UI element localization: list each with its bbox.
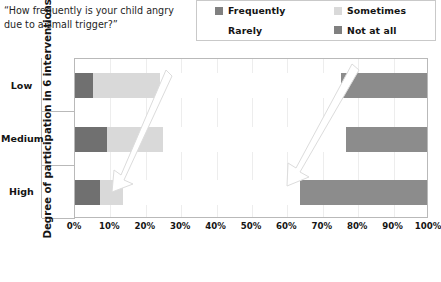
legend-item-frequently: Frequently	[197, 5, 316, 16]
legend-item-rarely: Rarely	[197, 25, 316, 36]
bar-row-low	[75, 73, 428, 98]
bar-segment-medium-not-at-all	[346, 127, 428, 152]
chart-legend: Frequently Sometimes Rarely Not at all	[196, 0, 436, 41]
x-tick-label: 60%	[276, 221, 297, 231]
legend-swatch-frequently	[215, 7, 223, 15]
bar-segment-medium-rarely	[164, 127, 346, 152]
bar-segment-high-not-at-all	[300, 180, 428, 205]
legend-swatch-rarely	[215, 26, 223, 34]
x-tick-label: 40%	[205, 221, 226, 231]
bar-segment-low-sometimes	[93, 73, 160, 98]
legend-label-frequently: Frequently	[228, 5, 286, 16]
value-axis: 0%10%20%30%40%50%60%70%80%90%100%	[74, 221, 428, 235]
bar-segment-high-sometimes	[100, 180, 123, 205]
x-tick-label: 0%	[67, 221, 82, 231]
bar-row-high	[75, 180, 428, 205]
legend-swatch-sometimes	[334, 7, 342, 15]
x-tick-label: 80%	[347, 221, 368, 231]
legend-label-sometimes: Sometimes	[347, 5, 406, 16]
plot-area	[74, 58, 428, 218]
legend-swatch-not-at-all	[334, 26, 342, 34]
category-label-low: Low	[1, 79, 42, 90]
bar-segment-medium-sometimes	[107, 127, 164, 152]
bar-row-medium	[75, 127, 428, 152]
x-tick-label: 100%	[415, 221, 441, 231]
category-label-medium: Medium	[1, 133, 42, 144]
bar-segment-high-frequently	[75, 180, 100, 205]
bar-segment-low-not-at-all	[341, 73, 429, 98]
legend-label-rarely: Rarely	[228, 25, 262, 36]
x-tick-label: 10%	[99, 221, 120, 231]
bar-segment-high-rarely	[123, 180, 300, 205]
legend-item-sometimes: Sometimes	[316, 5, 435, 16]
y-axis-title: Degree of participation in 6 interventio…	[42, 9, 53, 239]
legend-item-not-at-all: Not at all	[316, 25, 435, 36]
bar-segment-low-rarely	[160, 73, 341, 98]
x-tick-label: 30%	[170, 221, 191, 231]
x-tick-label: 70%	[312, 221, 333, 231]
chart-question-title: “How frequently is your child angry due …	[4, 4, 190, 32]
legend-label-not-at-all: Not at all	[347, 25, 396, 36]
bar-segment-low-frequently	[75, 73, 93, 98]
x-tick-label: 90%	[382, 221, 403, 231]
bar-segment-medium-frequently	[75, 127, 107, 152]
category-label-high: High	[1, 186, 42, 197]
x-tick-label: 50%	[241, 221, 262, 231]
x-tick-label: 20%	[135, 221, 156, 231]
